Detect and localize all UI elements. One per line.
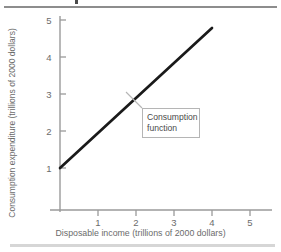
x-tick-label-3: 3	[167, 217, 181, 228]
callout-line-2: function	[147, 123, 195, 134]
consumption-function-callout: Consumption function	[142, 108, 200, 138]
x-axis-ticks	[98, 210, 250, 216]
x-axis-title: Disposable income (trillions of 2000 dol…	[0, 228, 281, 238]
y-axis-ticks	[60, 20, 66, 168]
y-tick-label-3: 3	[42, 89, 56, 100]
y-tick-label-4: 4	[42, 52, 56, 63]
x-tick-label-4: 4	[205, 217, 219, 228]
y-axis-title: Consumption expenditure (trillions of 20…	[7, 23, 17, 223]
y-tick-label-1: 1	[42, 163, 56, 174]
consumption-function-line	[60, 28, 212, 168]
callout-line-1: Consumption	[147, 112, 195, 123]
x-tick-label-5: 5	[243, 217, 257, 228]
consumption-function-figure: 5 4 3 2 1 1 2 3 4 5 Consumption expendit…	[0, 0, 281, 252]
y-tick-label-2: 2	[42, 126, 56, 137]
y-tick-label-5: 5	[42, 15, 56, 26]
x-tick-label-2: 2	[129, 217, 143, 228]
x-tick-label-1: 1	[91, 217, 105, 228]
